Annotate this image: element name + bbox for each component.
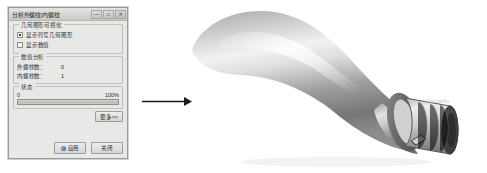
right-arrow-icon (142, 96, 192, 107)
close-icon[interactable]: ✕ (115, 10, 126, 19)
thread-handle-3d-model (186, 2, 484, 172)
handle-body (192, 11, 414, 152)
thread-analysis-dialog: 分析外螺纹/内螺纹 — □ ✕ 几何图形可视化 显示符号几何图形 显示数值 (8, 7, 128, 159)
group-visualization: 几何图形可视化 显示符号几何图形 显示数值 (13, 24, 123, 54)
dialog-title: 分析外螺纹/内螺纹 (12, 10, 91, 19)
watermark-text: Chuanbo (425, 98, 449, 104)
checkbox-row-show-symbol-geometry[interactable]: 显示符号几何图形 (17, 30, 119, 40)
label-external-thread-count: 外螺纹数： (17, 63, 61, 71)
minimize-icon[interactable]: — (91, 10, 102, 19)
apply-button-label: 应用 (68, 144, 80, 152)
dialog-footer: 应用 关闭 (13, 142, 123, 154)
value-internal-thread-count: 1 (61, 73, 64, 79)
model-shadow (240, 157, 432, 167)
checkbox-show-symbol-geometry[interactable] (17, 32, 23, 38)
group-numeric-analysis: 数值分析 外螺纹数： 0 内螺纹数： 1 (13, 56, 123, 84)
close-button[interactable]: 关闭 (91, 142, 123, 154)
maximize-icon[interactable]: □ (103, 10, 114, 19)
group-visualization-title: 几何图形可视化 (19, 21, 64, 29)
group-status: 状态 0 100% (13, 86, 123, 109)
apply-icon (61, 146, 66, 151)
checkbox-row-show-values[interactable]: 显示数值 (17, 40, 119, 50)
progress-max-label: 100% (105, 92, 119, 98)
window-controls: — □ ✕ (91, 10, 126, 19)
checkbox-label-show-symbol-geometry: 显示符号几何图形 (26, 31, 72, 39)
dialog-titlebar[interactable]: 分析外螺纹/内螺纹 — □ ✕ (9, 8, 127, 21)
checkbox-show-values[interactable] (17, 42, 23, 48)
value-external-thread-count: 0 (61, 64, 64, 70)
more-button[interactable]: 更多>> (95, 111, 123, 122)
progress-bar-fill (18, 100, 118, 104)
progress-scale: 0 100% (17, 92, 119, 98)
thread-lines (418, 102, 448, 152)
more-button-row: 更多>> (13, 111, 123, 122)
group-numeric-analysis-title: 数值分析 (19, 53, 46, 61)
row-internal-thread-count: 内螺纹数： 1 (17, 71, 119, 80)
group-status-title: 状态 (19, 83, 35, 91)
progress-min-label: 0 (17, 92, 20, 98)
apply-button[interactable]: 应用 (54, 142, 86, 154)
progress-bar (17, 99, 119, 105)
checkbox-label-show-values: 显示数值 (26, 41, 49, 49)
label-internal-thread-count: 内螺纹数： (17, 72, 61, 80)
row-external-thread-count: 外螺纹数： 0 (17, 62, 119, 71)
dialog-body: 几何图形可视化 显示符号几何图形 显示数值 数值分析 外螺纹数： 0 (9, 21, 127, 158)
